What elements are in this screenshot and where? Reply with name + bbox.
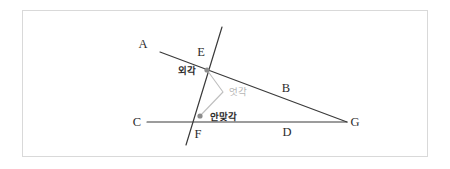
label-segment-b: B (282, 81, 290, 95)
alternate-angle-bracket-icon (200, 70, 223, 116)
line-ag (160, 52, 347, 122)
label-segment-d: D (282, 125, 291, 139)
point-f-dot (197, 113, 202, 118)
label-point-e: E (197, 45, 205, 59)
label-interior-opposite-angle: 안맞각 (210, 111, 237, 122)
label-point-a: A (138, 37, 147, 51)
label-point-c: C (133, 115, 141, 129)
point-e-dot (204, 67, 209, 72)
geometry-figure: A B C D E F G 외각 엇각 안맞각 (0, 0, 450, 169)
label-exterior-angle: 외각 (178, 65, 196, 76)
geometry-canvas: A B C D E F G 외각 엇각 안맞각 (0, 0, 450, 169)
label-alternate-angle: 엇각 (229, 86, 247, 97)
label-point-f: F (195, 127, 202, 141)
label-point-g: G (350, 115, 359, 129)
